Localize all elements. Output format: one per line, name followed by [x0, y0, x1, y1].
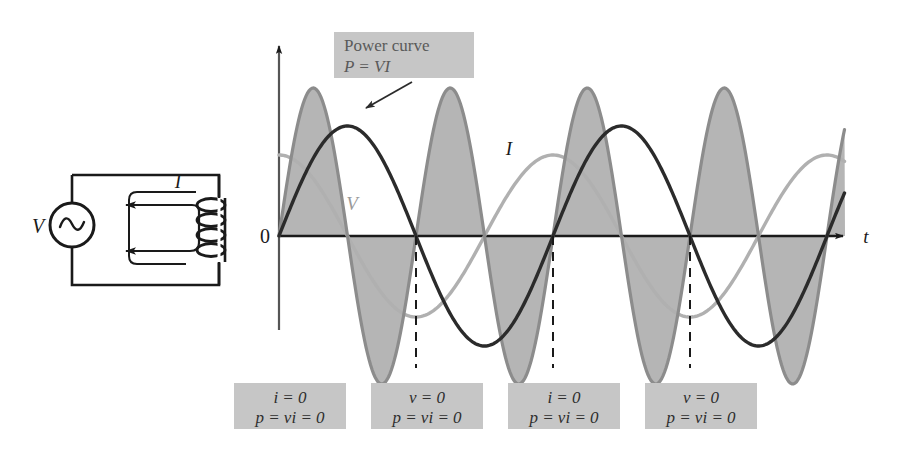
- annotation-boxes: i = 0p = vi = 0v = 0p = vi = 0i = 0p = v…: [234, 383, 757, 429]
- source-voltage-label: V: [32, 215, 47, 237]
- voltage-curve-label: V: [346, 193, 360, 214]
- origin-label: 0: [260, 225, 270, 247]
- power-curve-label-line1: Power curve: [344, 36, 429, 55]
- annotation-line2: p = vi = 0: [254, 408, 325, 427]
- waveform-plot: 0 t V I: [260, 46, 869, 384]
- circuit-diagram: V I: [32, 171, 225, 285]
- annotation-box: i = 0p = vi = 0: [508, 383, 620, 429]
- annotation-line1: i = 0: [273, 388, 307, 407]
- annotation-box: v = 0p = vi = 0: [371, 383, 483, 429]
- x-axis-label: t: [863, 226, 869, 247]
- ac-inductor-power-figure: V I 0 t: [0, 0, 899, 464]
- inductor-coil-icon: [197, 175, 225, 285]
- power-curve-pointer-arrow: [366, 82, 412, 108]
- annotation-line1: v = 0: [683, 388, 720, 407]
- current-direction-arrows: [126, 192, 199, 264]
- annotation-line2: p = vi = 0: [391, 408, 462, 427]
- annotation-line1: v = 0: [409, 388, 446, 407]
- annotation-box: v = 0p = vi = 0: [645, 383, 757, 429]
- annotation-line1: i = 0: [547, 388, 581, 407]
- current-curve-label: I: [505, 138, 514, 159]
- power-curve-label-line2: P = VI: [343, 57, 391, 76]
- annotation-box: i = 0p = vi = 0: [234, 383, 346, 429]
- annotation-line2: p = vi = 0: [528, 408, 599, 427]
- annotation-line2: p = vi = 0: [665, 408, 736, 427]
